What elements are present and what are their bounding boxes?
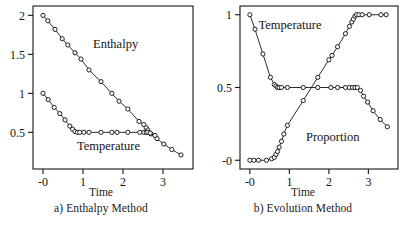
data-point-marker [285,85,289,89]
data-point-marker [46,19,50,23]
data-point-marker [153,133,157,137]
data-point-marker [335,85,339,89]
data-point-marker [256,158,260,162]
data-point-marker [347,24,351,28]
data-point-marker [384,13,388,17]
data-point-marker [301,85,305,89]
xaxis-tick-label: 2 [326,175,332,186]
data-point-marker [279,85,283,89]
data-point-marker [316,75,320,79]
data-point-marker [378,117,382,121]
data-point-marker [99,130,103,134]
yaxis-tick-label: 0.5 [217,81,232,95]
data-point-marker [379,13,383,17]
caption-a: a) Enthalpy Method [0,202,202,215]
xaxis-title-b: Time [202,186,404,199]
plot-area-evolution-method: -0123-00.51TemperatureProportion [202,0,404,186]
data-point-marker [162,142,166,146]
data-point-marker [371,109,375,113]
data-point-marker [60,37,64,41]
data-point-marker [268,75,272,79]
xaxis-tick-label: 3 [365,175,371,186]
data-point-marker [58,112,62,116]
data-point-marker [126,130,130,134]
data-point-marker [110,91,114,95]
data-point-marker [327,58,331,62]
xaxis-tick-label: 3 [160,175,166,186]
data-point-marker [66,43,70,47]
data-point-marker [115,130,119,134]
data-point-marker [63,118,67,122]
figure-two-panel-plots: -01230.511.52EnthalpyTemperature Time a)… [0,0,404,226]
data-point-marker [148,131,152,135]
plot-area-enthalpy-method: -01230.511.52EnthalpyTemperature [0,0,202,186]
series-annotation: Temperature [259,18,322,32]
panel-enthalpy-method: -01230.511.52EnthalpyTemperature Time a)… [0,0,202,226]
data-point-marker [170,147,174,151]
series-annotation: Proportion [306,130,360,144]
data-point-marker [367,13,371,17]
data-point-marker [253,27,257,31]
data-point-marker [316,85,320,89]
series-annotation: Enthalpy [93,37,139,51]
data-point-marker [117,99,121,103]
yaxis-tick-label: 1.5 [10,48,25,62]
data-point-marker [46,97,50,101]
xaxis-tick-label: -0 [38,175,48,186]
data-point-marker [282,132,286,136]
data-point-marker [358,88,362,92]
data-point-marker [285,123,289,127]
data-point-marker [248,13,252,17]
series-annotation: Temperature [77,139,140,153]
data-point-marker [362,94,366,98]
xaxis-tick-label: 1 [80,175,86,186]
xaxis-title-a: Time [0,186,202,199]
yaxis-tick-label: 1 [19,87,25,101]
data-point-marker [343,32,347,36]
xaxis-tick-label: -0 [245,175,255,186]
caption-b: b) Evolution Method [202,202,404,215]
data-point-marker [87,130,91,134]
data-point-marker [52,105,56,109]
data-point-marker [87,68,91,72]
data-point-marker [79,57,83,61]
data-point-marker [275,149,279,153]
yaxis-tick-label: -0 [222,154,232,168]
data-point-marker [41,13,45,17]
xaxis-tick-label: 1 [286,175,292,186]
data-point-marker [279,139,283,143]
data-point-marker [261,52,265,56]
data-point-marker [330,53,334,57]
data-point-marker [360,13,364,17]
data-point-marker [137,119,141,123]
yaxis-tick-label: 1 [226,8,232,22]
xaxis-tick-label: 2 [120,175,126,186]
data-point-marker [365,100,369,104]
data-point-marker [99,80,103,84]
panel-evolution-method: -0123-00.51TemperatureProportion Time b)… [202,0,404,226]
data-point-marker [82,130,86,134]
yaxis-tick-label: 2 [19,9,25,23]
data-point-marker [301,99,305,103]
data-point-marker [179,153,183,157]
data-point-marker [385,125,389,129]
data-point-marker [110,130,114,134]
data-point-marker [126,107,130,111]
data-point-marker [41,91,45,95]
data-point-marker [73,51,77,55]
data-point-marker [277,145,281,149]
data-point-marker [252,158,256,162]
data-point-marker [53,27,57,31]
yaxis-tick-label: 0.5 [10,126,25,140]
data-point-marker [335,45,339,49]
data-point-marker [264,158,268,162]
series-group [41,13,183,157]
data-point-marker [329,85,333,89]
